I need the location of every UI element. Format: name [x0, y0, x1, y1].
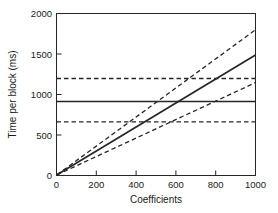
x-tick-label-200: 200 [88, 179, 104, 190]
y-tick-label-500: 500 [36, 130, 52, 141]
chart-figure: 0 500 1000 1500 2000 0 200 400 600 800 1… [0, 0, 278, 213]
x-axis-title: Coefficients [130, 194, 182, 205]
y-axis-title: Time per block (ms) [7, 51, 18, 139]
x-tick-label-0: 0 [54, 179, 59, 190]
y-tick-label-1000: 1000 [31, 89, 52, 100]
x-tick-label-400: 400 [128, 179, 144, 190]
y-tick-label-2000: 2000 [31, 8, 52, 19]
y-tick-label-0: 0 [47, 170, 52, 181]
x-tick-label-800: 800 [208, 179, 224, 190]
x-tick-label-1000: 1000 [245, 179, 266, 190]
axes-frame [57, 14, 256, 176]
x-tick-label-600: 600 [168, 179, 184, 190]
plot-canvas: 0 500 1000 1500 2000 0 200 400 600 800 1… [0, 0, 278, 213]
y-tick-label-1500: 1500 [31, 49, 52, 60]
